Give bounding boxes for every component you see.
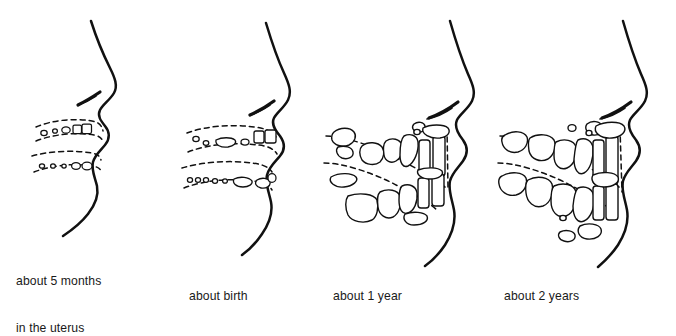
caption-line: about 1 year xyxy=(333,289,402,305)
panel-3-drawing xyxy=(324,21,474,266)
panel-caption-2: about birth xyxy=(189,258,248,336)
panel-2-drawing xyxy=(182,23,290,255)
panel-caption-4: about 2 years xyxy=(504,258,579,336)
panel-4-drawing xyxy=(498,21,647,267)
caption-line: in the uterus xyxy=(16,321,101,336)
panel-1-drawing xyxy=(32,21,116,236)
caption-line: about birth xyxy=(189,289,248,305)
panel-caption-3: about 1 year xyxy=(333,258,402,336)
caption-line: about 2 years xyxy=(504,289,579,305)
panel-caption-1: about 5 months in the uterus xyxy=(16,243,101,336)
caption-line: about 5 months xyxy=(16,274,101,290)
